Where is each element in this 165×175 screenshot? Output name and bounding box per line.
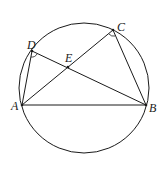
circle [19,23,149,153]
point-b [145,104,148,107]
geometry-diagram: A B C D E [0,0,165,175]
label-d: D [26,38,36,52]
angle-mark-d [31,54,37,57]
label-c: C [117,20,126,34]
point-c [112,29,115,32]
label-e: E [64,51,73,65]
label-a: A [10,99,19,113]
segment-ad [22,51,32,105]
point-a [21,104,24,107]
angle-mark-c [109,34,115,36]
segment-bd [32,51,146,105]
label-b: B [149,101,157,115]
point-e [67,66,70,69]
